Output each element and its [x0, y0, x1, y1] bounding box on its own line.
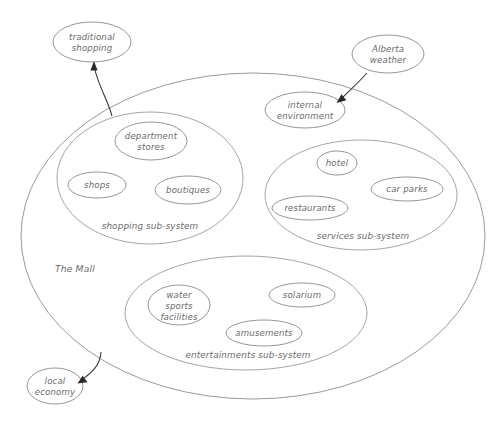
department-stores-label-line2: stores: [137, 142, 165, 152]
node-internal-environment[interactable]: internal environment: [265, 92, 345, 128]
boutiques-label: boutiques: [166, 185, 210, 195]
node-shops[interactable]: shops: [68, 172, 126, 198]
diagram-canvas: The Mall shopping sub-system department …: [0, 0, 502, 428]
node-car-parks[interactable]: car parks: [371, 177, 443, 201]
node-local-economy[interactable]: local economy: [27, 368, 83, 404]
services-sub-system-group[interactable]: services sub-system hotel car parks rest…: [265, 140, 457, 250]
water-sports-facilities-label-line1: water: [166, 290, 192, 300]
entertainments-sub-system-label: entertainments sub-system: [185, 350, 310, 360]
local-economy-label-line2: economy: [35, 387, 76, 397]
node-alberta-weather[interactable]: Alberta weather: [352, 35, 424, 73]
connector-path-traditional-shopping: [94, 66, 112, 116]
node-restaurants[interactable]: restaurants: [272, 196, 348, 220]
amusements-label: amusements: [235, 328, 293, 338]
water-sports-facilities-label-line3: facilities: [160, 312, 198, 322]
restaurants-label: restaurants: [284, 203, 335, 213]
traditional-shopping-label-line1: traditional: [69, 32, 115, 42]
connector-path-alberta-weather: [342, 73, 367, 98]
car-parks-label: car parks: [386, 184, 428, 194]
services-sub-system-label: services sub-system: [317, 231, 409, 241]
traditional-shopping-label-line2: shopping: [72, 43, 113, 53]
local-economy-label-line1: local: [45, 376, 66, 386]
alberta-weather-label-line2: weather: [370, 55, 407, 65]
node-water-sports-facilities[interactable]: water sports facilities: [148, 285, 210, 325]
shops-label: shops: [84, 180, 110, 190]
department-stores-label-line1: department: [125, 131, 178, 141]
hotel-label: hotel: [326, 158, 349, 168]
solarium-label: solarium: [283, 290, 321, 300]
the-mall-label: The Mall: [55, 263, 95, 274]
node-amusements[interactable]: amusements: [226, 320, 302, 346]
water-sports-facilities-label-line2: sports: [165, 301, 193, 311]
node-hotel[interactable]: hotel: [317, 151, 357, 175]
connector-alberta-weather-to-internal-environment: [337, 73, 368, 103]
connector-path-local-economy: [83, 352, 101, 379]
node-boutiques[interactable]: boutiques: [155, 176, 221, 204]
node-solarium[interactable]: solarium: [269, 283, 335, 307]
alberta-weather-label-line1: Alberta: [371, 44, 404, 54]
mall-system-diagram: The Mall shopping sub-system department …: [0, 0, 502, 428]
entertainments-sub-system-group[interactable]: entertainments sub-system water sports f…: [125, 256, 367, 370]
node-department-stores[interactable]: department stores: [115, 122, 187, 160]
internal-environment-label-line1: internal: [288, 100, 323, 110]
node-traditional-shopping[interactable]: traditional shopping: [53, 22, 131, 62]
shopping-sub-system-label: shopping sub-system: [102, 221, 199, 231]
connector-to-traditional-shopping: [90, 61, 112, 116]
shopping-sub-system-group[interactable]: shopping sub-system department stores sh…: [57, 112, 243, 244]
internal-environment-label-line2: environment: [277, 111, 334, 121]
